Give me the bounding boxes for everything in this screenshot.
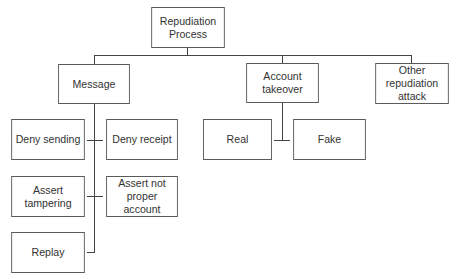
connector-account-trunk — [282, 103, 283, 141]
node-message: Message — [58, 64, 130, 104]
node-label: Account takeover — [262, 70, 303, 96]
connector-message-trunk — [94, 104, 95, 253]
node-deny-sending: Deny sending — [11, 119, 85, 160]
node-label: Assert not proper account — [107, 177, 177, 216]
connector-root-stem — [187, 48, 188, 55]
connector-assert-row — [87, 196, 103, 197]
node-label: Other repudiation attack — [386, 64, 438, 103]
node-label: Assert tampering — [24, 184, 71, 210]
node-replay: Replay — [11, 232, 85, 273]
node-label: Real — [227, 133, 249, 146]
connector-deny-row — [87, 140, 103, 141]
node-label: Deny receipt — [112, 133, 171, 146]
connector-account-up — [282, 55, 283, 63]
connector-real-fake — [274, 140, 290, 141]
node-label: Repudiation Process — [160, 15, 216, 41]
connector-replay — [87, 252, 95, 253]
node-label: Replay — [32, 246, 65, 259]
node-fake: Fake — [293, 119, 366, 160]
node-repudiation-process: Repudiation Process — [151, 7, 225, 48]
node-label: Deny sending — [16, 133, 81, 146]
node-label: Fake — [318, 133, 342, 146]
node-real: Real — [203, 119, 272, 160]
connector-other-up — [411, 55, 412, 63]
connector-message-up — [94, 55, 95, 64]
connector-level1-bus — [94, 55, 412, 56]
node-account-takeover: Account takeover — [246, 63, 319, 103]
node-deny-receipt: Deny receipt — [106, 119, 178, 160]
node-other-repudiation-attack: Other repudiation attack — [375, 63, 449, 104]
node-assert-not-proper-account: Assert not proper account — [106, 176, 178, 217]
node-assert-tampering: Assert tampering — [11, 176, 85, 217]
node-label: Message — [73, 78, 116, 91]
